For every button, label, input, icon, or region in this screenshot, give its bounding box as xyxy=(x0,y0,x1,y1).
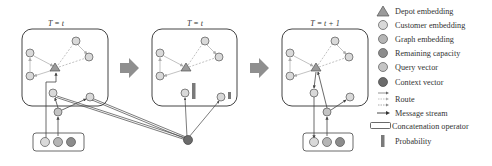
graph-circle-icon xyxy=(376,33,392,45)
customer-node xyxy=(156,72,164,80)
attention-line xyxy=(185,98,187,137)
message-stream xyxy=(331,100,346,110)
context-vector-node xyxy=(184,136,193,145)
transition-arrow-icon xyxy=(120,58,139,78)
message-arrow-icon xyxy=(376,107,392,119)
legend-item-query: Query vector xyxy=(376,61,438,73)
panel-1-frame xyxy=(22,29,108,106)
legend-label: Concatenation operator xyxy=(392,122,469,131)
customer-node xyxy=(286,72,294,80)
customer-node xyxy=(85,53,93,61)
legend-label: Query vector xyxy=(395,63,438,72)
legend-item-concat: Concatenation operator xyxy=(370,120,469,132)
legend-label: Graph embedding xyxy=(395,35,454,44)
query-circle-icon xyxy=(376,61,392,73)
legend-label: Depot embedding xyxy=(395,7,453,16)
query-vector-node xyxy=(323,108,331,116)
capacity-circle-icon xyxy=(376,47,392,59)
probability-bar-icon xyxy=(376,135,392,147)
graph-embedding-node xyxy=(323,138,332,147)
legend-label: Message stream xyxy=(395,109,448,118)
graph-embedding-node xyxy=(41,138,50,147)
depot-triangle-icon xyxy=(376,5,392,17)
graph-embedding-node xyxy=(54,138,63,147)
legend-item-context: Context vector xyxy=(376,76,443,88)
panel-1: T = t xyxy=(22,19,108,151)
context-circle-icon xyxy=(376,76,392,88)
probability-bar xyxy=(192,83,196,99)
legend: Depot embedding Customer embedding Graph… xyxy=(376,0,492,166)
customer-node xyxy=(217,93,225,101)
legend-item-probability: Probability xyxy=(376,135,431,147)
customer-circle-icon xyxy=(376,19,392,31)
legend-item-message: Message stream xyxy=(376,107,448,119)
legend-item-graph: Graph embedding xyxy=(376,33,454,45)
panel-2-title: T = t xyxy=(187,19,204,28)
message-stream xyxy=(318,72,327,108)
query-vector-node xyxy=(54,108,62,116)
legend-label: Customer embedding xyxy=(395,21,465,30)
graph-embedding-node xyxy=(310,138,319,147)
legend-item-route: Route xyxy=(376,90,415,108)
legend-item-capacity: Remaining capacity xyxy=(376,47,460,59)
panel-3-frame xyxy=(282,29,368,106)
customer-node xyxy=(156,49,164,57)
concat-box-icon xyxy=(370,120,392,132)
legend-label: Remaining capacity xyxy=(395,49,460,58)
panel-1-title: T = t xyxy=(48,19,65,28)
customer-node xyxy=(86,93,94,101)
transition-arrow-icon xyxy=(250,58,269,78)
probability-bar xyxy=(228,92,231,99)
customer-node xyxy=(310,89,318,97)
customer-node xyxy=(49,89,57,97)
customer-node xyxy=(346,93,354,101)
remaining-capacity-node xyxy=(336,138,345,147)
customer-node xyxy=(345,53,353,61)
customer-node xyxy=(26,72,34,80)
customer-node xyxy=(26,49,34,57)
panel-3-title: T = t + 1 xyxy=(310,19,339,28)
remaining-capacity-node xyxy=(67,138,76,147)
legend-item-customer: Customer embedding xyxy=(376,19,465,31)
route-edge xyxy=(314,72,316,88)
customer-node xyxy=(72,37,80,45)
panel-3: T = t + 1 xyxy=(282,19,368,151)
legend-label: Route xyxy=(395,95,415,104)
customer-node xyxy=(201,37,209,45)
customer-node xyxy=(215,53,223,61)
route-arrows-icon xyxy=(376,90,392,108)
customer-node xyxy=(181,89,189,97)
legend-label: Context vector xyxy=(395,78,443,87)
customer-node xyxy=(286,49,294,57)
legend-item-depot: Depot embedding xyxy=(376,5,453,17)
legend-label: Probability xyxy=(395,137,431,146)
customer-node xyxy=(331,37,339,45)
panel-2: T = t xyxy=(152,19,237,145)
